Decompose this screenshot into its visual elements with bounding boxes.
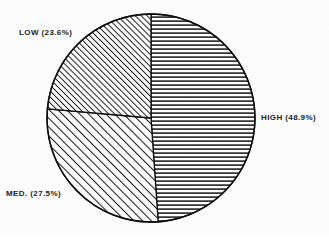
pie-label-high: HIGH (48.9%) <box>261 113 316 123</box>
pie-label-low: LOW (23.6%) <box>19 28 72 38</box>
pie-label-med: MED. (27.5%) <box>6 189 61 199</box>
